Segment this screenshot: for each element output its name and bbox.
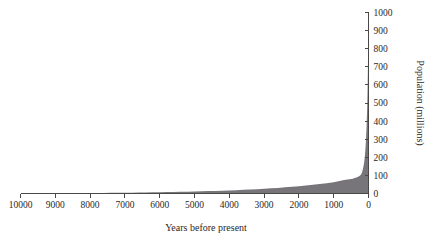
y-tick-label-600: 600: [374, 80, 389, 90]
y-tick-label-100: 100: [374, 171, 389, 181]
chart-canvas: 1000090008000700060005000400030002000100…: [0, 0, 429, 242]
y-axis-tick-labels: 01002003004005006007008009001000: [374, 8, 393, 199]
x-tick-label-3000: 3000: [255, 200, 274, 210]
y-tick-label-1000: 1000: [374, 8, 393, 18]
x-tick-label-2000: 2000: [289, 200, 308, 210]
y-tick-label-0: 0: [374, 189, 379, 199]
x-tick-label-7000: 7000: [115, 200, 134, 210]
x-tick-label-10000: 10000: [9, 200, 33, 210]
x-tick-label-5000: 5000: [185, 200, 204, 210]
y-tick-label-800: 800: [374, 44, 389, 54]
x-axis-title: Years before present: [165, 222, 247, 233]
x-axis-tick-labels: 1000090008000700060005000400030002000100…: [9, 200, 372, 210]
y-tick-label-200: 200: [374, 153, 389, 163]
population-area-series: [21, 13, 369, 194]
y-tick-label-400: 400: [374, 117, 389, 127]
population-growth-chart: 1000090008000700060005000400030002000100…: [0, 0, 429, 242]
y-tick-label-500: 500: [374, 98, 389, 108]
x-tick-label-9000: 9000: [46, 200, 65, 210]
x-tick-label-1000: 1000: [324, 200, 343, 210]
plot-area: [21, 13, 369, 194]
y-tick-label-300: 300: [374, 135, 389, 145]
x-tick-label-6000: 6000: [150, 200, 169, 210]
y-tick-label-700: 700: [374, 62, 389, 72]
x-axis: 1000090008000700060005000400030002000100…: [9, 194, 372, 210]
y-axis: 01002003004005006007008009001000: [365, 8, 393, 199]
x-tick-label-4000: 4000: [220, 200, 239, 210]
y-axis-title: Population (millions): [414, 60, 426, 145]
x-tick-label-0: 0: [366, 200, 371, 210]
x-axis-ticks: [21, 194, 369, 198]
x-tick-label-8000: 8000: [81, 200, 100, 210]
y-tick-label-900: 900: [374, 26, 389, 36]
